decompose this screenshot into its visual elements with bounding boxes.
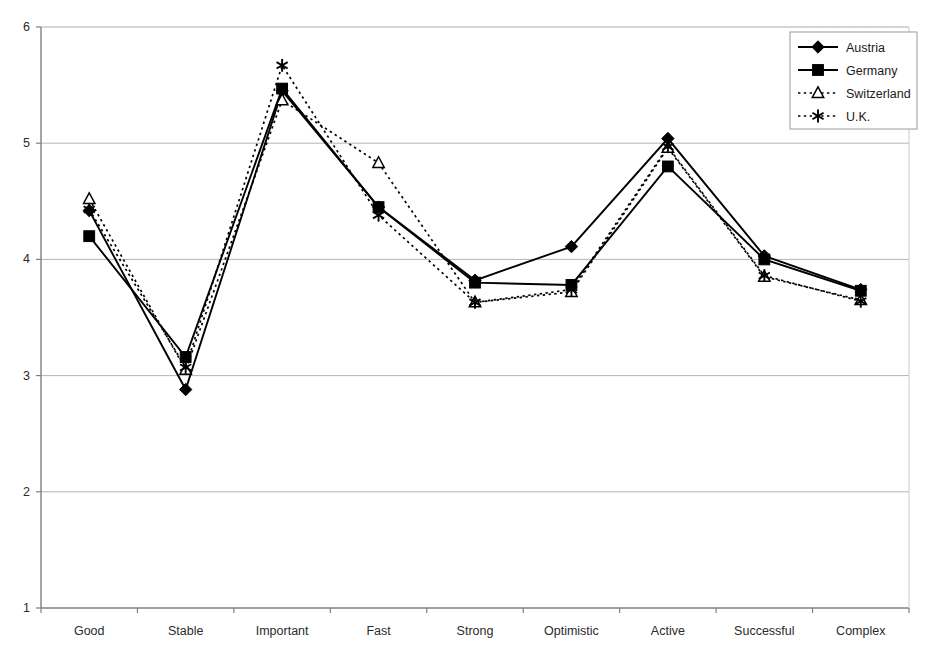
datapoint-germany-strong [470,277,481,288]
x-axis-label-strong: Strong [457,624,494,638]
x-axis-label-complex: Complex [836,624,885,638]
legend-label-germany: Germany [846,64,898,78]
x-axis-label-important: Important [256,624,309,638]
x-axis-label-successful: Successful [734,624,794,638]
chart-container: AustriaGermanySwitzerlandU.K. 654321 Goo… [0,0,934,652]
x-axis-label-active: Active [651,624,685,638]
gridlines [41,27,909,492]
datapoint-germany-good [84,231,95,242]
series-layer [83,59,867,396]
x-axis-label-fast: Fast [366,624,390,638]
datapoint-germany-active [662,161,673,172]
datapoint-switzerland-good [84,193,95,204]
y-axis-label-3: 3 [0,369,30,383]
datapoint-switzerland-fast [373,157,384,168]
datapoint-germany-successful [759,254,770,265]
legend-label-u-k: U.K. [846,110,870,124]
y-axis-label-2: 2 [0,485,30,499]
x-axis-label-good: Good [74,624,105,638]
x-axis-label-optimistic: Optimistic [544,624,599,638]
legend-label-austria: Austria [846,41,885,55]
datapoint-germany-important [277,83,288,94]
y-tick-marks [36,27,41,608]
y-axis-label-5: 5 [0,136,30,150]
axis-lines [41,27,909,608]
datapoint-germany-stable [180,352,191,363]
y-axis-label-4: 4 [0,252,30,266]
x-axis-label-stable: Stable [168,624,203,638]
series-line-germany [89,89,861,357]
datapoint-austria-stable [179,383,191,395]
legend-label-switzerland: Switzerland [846,87,911,101]
datapoint-u-k-important [277,59,288,72]
y-axis-label-6: 6 [0,20,30,34]
legend-marker-germany [813,65,824,76]
series-line-u-k [89,65,861,367]
x-tick-marks [41,608,909,613]
line-chart-plot: AustriaGermanySwitzerlandU.K. [0,0,934,652]
chart-legend: AustriaGermanySwitzerlandU.K. [790,32,917,129]
y-axis-label-1: 1 [0,601,30,615]
